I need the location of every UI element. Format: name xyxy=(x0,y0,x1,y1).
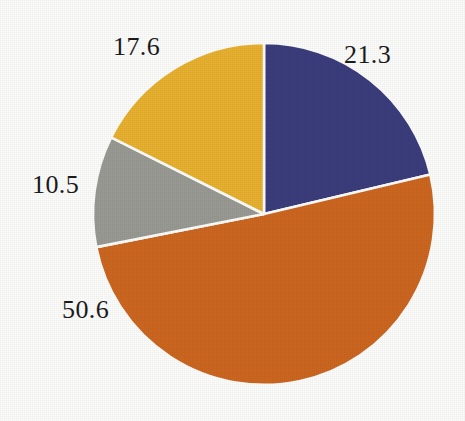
pie-slice-label-17-6: 17.6 xyxy=(113,34,160,60)
pie-chart-canvas xyxy=(0,0,465,421)
pie-slice-label-10-5: 10.5 xyxy=(32,172,79,198)
pie-chart-figure: 21.3 50.6 10.5 17.6 xyxy=(0,0,465,421)
pie-slice-group xyxy=(93,43,435,385)
pie-slice-label-50-6: 50.6 xyxy=(62,297,109,323)
pie-slice-label-21-3: 21.3 xyxy=(344,42,391,68)
